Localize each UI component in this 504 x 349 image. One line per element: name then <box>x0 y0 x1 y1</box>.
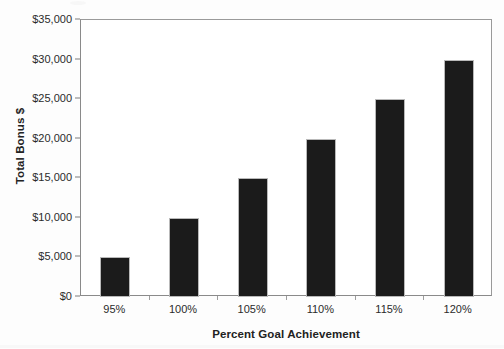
y-axis-title: Total Bonus $ <box>14 76 26 216</box>
x-axis-tick-mark <box>423 296 424 300</box>
y-axis-tick-label: $20,000 <box>32 132 72 144</box>
y-axis-tick-label: $10,000 <box>32 211 72 223</box>
scan-artifact-bottom <box>0 345 504 348</box>
y-axis-tick-label: $15,000 <box>32 171 72 183</box>
y-axis-tick-label: $25,000 <box>32 92 72 104</box>
x-axis-tick-label: 105% <box>238 303 266 315</box>
x-axis-tick-label: 95% <box>103 303 125 315</box>
x-axis-tick-label: 110% <box>307 303 334 315</box>
plot-area <box>80 19 492 296</box>
bar <box>444 60 474 297</box>
bar <box>100 257 130 297</box>
bar <box>375 99 405 297</box>
x-axis-tick-label: 100% <box>169 303 197 315</box>
bar <box>169 218 199 297</box>
x-axis-tick-mark <box>355 296 356 300</box>
y-axis-tick-label-group: $0$5,000$10,000$15,000$20,000$25,000$30,… <box>0 0 78 349</box>
bar <box>306 139 336 297</box>
y-axis-tick-label: $0 <box>60 290 72 302</box>
bar-chart: Total Bonus $ $0$5,000$10,000$15,000$20,… <box>0 0 504 349</box>
x-axis-tick-label: 115% <box>375 303 402 315</box>
x-axis-tick-mark <box>286 296 287 300</box>
x-axis-tick-mark <box>149 296 150 300</box>
x-axis-tick-mark <box>217 296 218 300</box>
y-axis-tick-label: $30,000 <box>32 53 72 65</box>
bar <box>238 178 268 297</box>
x-axis-title: Percent Goal Achievement <box>80 328 492 340</box>
y-axis-tick-label: $5,000 <box>38 250 72 262</box>
scan-artifact-top <box>70 1 86 5</box>
y-axis-tick-label: $35,000 <box>32 13 72 25</box>
x-axis-tick-label: 120% <box>444 303 472 315</box>
